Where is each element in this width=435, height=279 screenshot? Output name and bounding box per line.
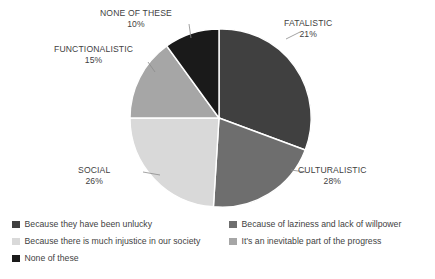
legend-swatch-icon-injustice — [12, 238, 20, 246]
chart-legend: Because they have been unlucky Because t… — [0, 216, 435, 279]
slice-label-none-of-these-value: 10% — [100, 19, 172, 30]
legend-label-injustice: Because there is much injustice in our s… — [25, 236, 201, 247]
slice-label-functionalistic: FUNCTIONALISTIC 15% — [54, 44, 133, 67]
legend-item-injustice[interactable]: Because there is much injustice in our s… — [12, 236, 200, 247]
pie-plot-area: FATALISTIC 21% CULTURALISTIC 28% SOCIAL … — [0, 0, 435, 212]
slice-label-fatalistic: FATALISTIC 21% — [284, 18, 332, 41]
slice-label-none-of-these: NONE OF THESE 10% — [100, 8, 172, 31]
legend-label-unlucky: Because they have been unlucky — [25, 219, 153, 230]
legend-label-none-of-these: None of these — [25, 253, 79, 264]
slice-label-social-value: 26% — [78, 176, 110, 187]
legend-item-none-of-these[interactable]: None of these — [12, 253, 79, 264]
legend-item-unlucky[interactable]: Because they have been unlucky — [12, 219, 152, 230]
legend-swatch-icon-unlucky — [12, 221, 20, 229]
pie-slices — [130, 29, 311, 207]
legend-item-progress[interactable]: It’s an inevitable part of the progress — [229, 236, 381, 247]
legend-swatch-icon-laziness — [229, 221, 237, 229]
slice-label-social: SOCIAL 26% — [78, 165, 110, 188]
slice-label-social-category: SOCIAL — [78, 165, 110, 176]
pie-slice-social[interactable] — [130, 118, 219, 207]
slice-label-fatalistic-category: FATALISTIC — [284, 18, 332, 29]
slice-label-none-of-these-category: NONE OF THESE — [100, 8, 172, 19]
slice-label-functionalistic-value: 15% — [54, 55, 133, 66]
slice-label-culturalistic-value: 28% — [298, 176, 367, 187]
slice-label-culturalistic-category: CULTURALISTIC — [298, 165, 367, 176]
legend-label-laziness: Because of laziness and lack of willpowe… — [242, 219, 402, 230]
slice-label-culturalistic: CULTURALISTIC 28% — [298, 165, 367, 188]
legend-swatch-icon-none-of-these — [12, 255, 20, 263]
pie-svg — [0, 0, 435, 212]
legend-label-progress: It’s an inevitable part of the progress — [242, 236, 382, 247]
slice-label-functionalistic-category: FUNCTIONALISTIC — [54, 44, 133, 55]
slice-label-fatalistic-value: 21% — [284, 29, 332, 40]
legend-swatch-icon-progress — [229, 238, 237, 246]
legend-item-laziness[interactable]: Because of laziness and lack of willpowe… — [229, 219, 401, 230]
pie-chart-figure: FATALISTIC 21% CULTURALISTIC 28% SOCIAL … — [0, 0, 435, 279]
